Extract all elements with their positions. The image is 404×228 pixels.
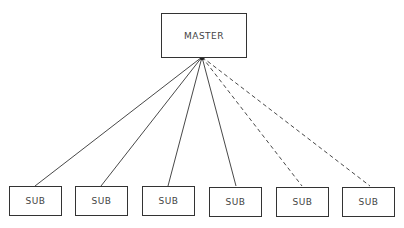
sub-label: SUB	[92, 196, 112, 206]
link-4	[202, 57, 236, 186]
sub-label: SUB	[26, 196, 46, 206]
sub-node-1: SUB	[9, 186, 62, 216]
sub-node-6: SUB	[342, 187, 395, 217]
sub-node-3: SUB	[142, 186, 195, 216]
link-1	[35, 57, 202, 186]
link-2	[101, 57, 202, 186]
sub-node-4: SUB	[209, 187, 262, 217]
master-node: MASTER	[161, 13, 247, 58]
sub-label: SUB	[293, 197, 313, 207]
link-5	[202, 57, 302, 186]
sub-label: SUB	[359, 197, 379, 207]
sub-node-2: SUB	[75, 186, 128, 216]
link-3	[168, 57, 202, 186]
link-6	[202, 57, 370, 186]
sub-label: SUB	[159, 196, 179, 206]
master-label: MASTER	[184, 31, 224, 41]
sub-label: SUB	[226, 197, 246, 207]
sub-node-5: SUB	[276, 187, 329, 217]
